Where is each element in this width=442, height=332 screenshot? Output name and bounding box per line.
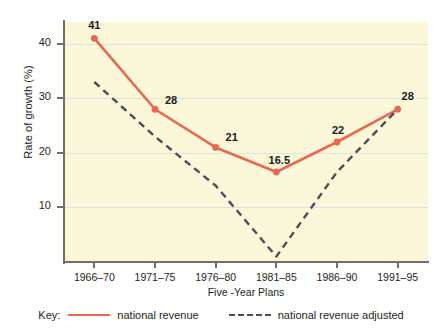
series-lines xyxy=(0,0,442,332)
legend-dashed-line-icon xyxy=(229,309,271,321)
data-point-label: 22 xyxy=(318,124,358,136)
series-line xyxy=(94,82,397,257)
data-point-label: 21 xyxy=(212,131,252,143)
legend-label: national revenue xyxy=(117,309,198,321)
legend-label: national revenue adjusted xyxy=(278,309,404,321)
data-point-marker xyxy=(152,106,159,113)
data-point-label: 28 xyxy=(388,90,428,102)
chart-figure: Rate of growth (%) 10203040 1966–701971–… xyxy=(0,0,442,332)
legend-entry: national revenue xyxy=(68,309,198,321)
legend-solid-line-icon xyxy=(68,309,110,321)
legend-entry: national revenue adjusted xyxy=(229,309,404,321)
series-line xyxy=(94,38,397,172)
x-axis-title: Five -Year Plans xyxy=(64,286,428,298)
data-point-label: 16.5 xyxy=(259,154,299,166)
data-point-label: 28 xyxy=(151,94,191,106)
chart-legend: Key: national revenuenational revenue ad… xyxy=(0,305,442,325)
data-point-marker xyxy=(334,139,341,146)
data-point-marker xyxy=(91,35,98,42)
data-point-marker xyxy=(273,169,280,176)
legend-key-label: Key: xyxy=(38,309,60,321)
data-point-label: 41 xyxy=(74,19,114,31)
data-point-marker xyxy=(212,144,219,151)
data-point-marker xyxy=(394,106,401,113)
